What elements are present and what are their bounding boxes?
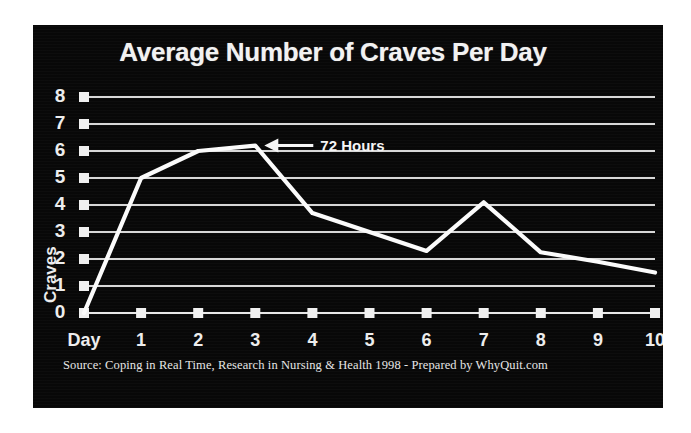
x-tick-label-0: Day <box>67 330 100 350</box>
annotation-label: 72 Hours <box>320 137 384 154</box>
y-tick-marker-4 <box>79 200 89 210</box>
y-tick-label-8: 8 <box>55 85 66 106</box>
x-tick-label-9: 9 <box>593 330 603 350</box>
source-note: Source: Coping in Real Time, Research in… <box>63 358 653 373</box>
x-tick-label-2: 2 <box>193 330 203 350</box>
x-tick-label-7: 7 <box>479 330 489 350</box>
y-tick-marker-3 <box>79 227 89 237</box>
y-axis-tick-markers <box>79 92 89 318</box>
x-tick-marker-10 <box>650 308 660 318</box>
x-tick-marker-6 <box>422 308 432 318</box>
y-tick-label-5: 5 <box>55 166 66 187</box>
chart-page: Average Number of Craves Per Day 8765432… <box>0 0 691 433</box>
y-tick-label-0: 0 <box>55 301 66 322</box>
y-tick-label-7: 7 <box>55 112 66 133</box>
x-tick-marker-2 <box>193 308 203 318</box>
x-tick-label-6: 6 <box>422 330 432 350</box>
x-tick-label-10: 10 <box>645 330 663 350</box>
y-tick-marker-6 <box>79 146 89 156</box>
x-tick-marker-1 <box>136 308 146 318</box>
x-tick-label-5: 5 <box>364 330 374 350</box>
x-tick-label-1: 1 <box>136 330 146 350</box>
x-tick-label-8: 8 <box>536 330 546 350</box>
chart-panel: Average Number of Craves Per Day 8765432… <box>33 25 663 408</box>
x-tick-label-3: 3 <box>250 330 260 350</box>
y-tick-marker-5 <box>79 173 89 183</box>
y-tick-marker-8 <box>79 92 89 102</box>
x-axis-tick-labels: Day12345678910 <box>67 330 663 350</box>
x-tick-label-4: 4 <box>307 330 317 350</box>
craves-data-line <box>84 146 655 313</box>
x-tick-marker-3 <box>250 308 260 318</box>
y-tick-label-4: 4 <box>55 193 66 214</box>
x-tick-marker-7 <box>479 308 489 318</box>
line-chart-plot: 876543210 Day12345678910 72 Hours <box>33 25 663 408</box>
x-tick-marker-5 <box>365 308 375 318</box>
y-axis-title: Craves <box>41 223 61 303</box>
y-tick-label-6: 6 <box>55 139 66 160</box>
y-tick-marker-2 <box>79 254 89 264</box>
x-tick-marker-4 <box>307 308 317 318</box>
y-tick-marker-7 <box>79 119 89 129</box>
y-tick-marker-1 <box>79 281 89 291</box>
x-tick-marker-9 <box>593 308 603 318</box>
x-tick-marker-8 <box>536 308 546 318</box>
